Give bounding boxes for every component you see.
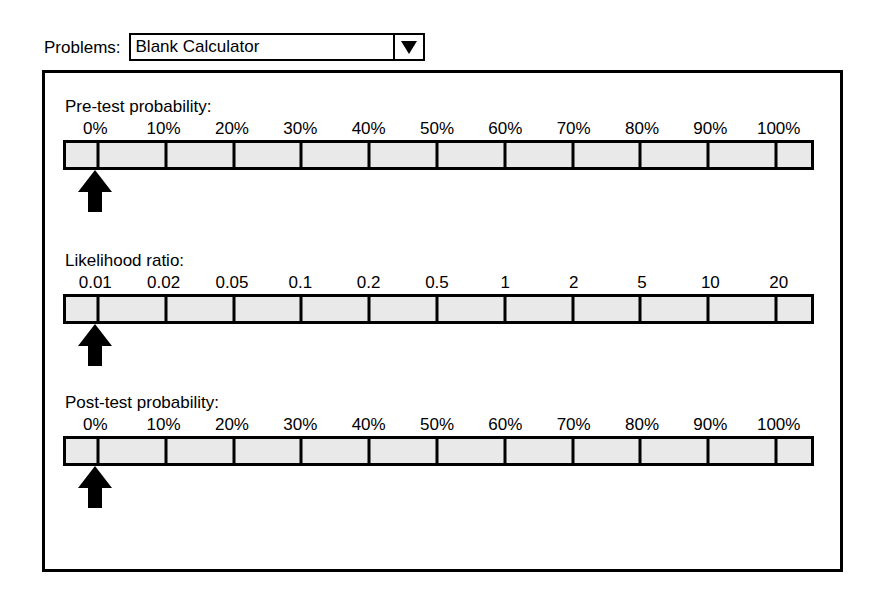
scale-tick-label: 10% <box>147 414 181 436</box>
slider-tick-divider <box>300 297 303 321</box>
slider-tick-divider <box>232 143 235 167</box>
scale-tick-label: 30% <box>283 118 317 140</box>
up-arrow-head <box>78 466 112 488</box>
chevron-down-icon <box>401 41 417 54</box>
slider-tick-divider <box>97 297 100 321</box>
scale-tick-label: 60% <box>488 414 522 436</box>
scale-tick-label: 0.02 <box>147 272 180 294</box>
up-arrow-head <box>78 324 112 346</box>
slider-tick-divider <box>436 439 439 463</box>
slider-track-pre-test-probability[interactable] <box>63 140 814 170</box>
marker-row-pre-test-probability <box>63 170 814 212</box>
up-arrow-stem <box>88 345 102 366</box>
up-arrow-stem <box>88 487 102 508</box>
scale-tick-label: 0.05 <box>215 272 248 294</box>
slider-tick-divider <box>232 439 235 463</box>
slider-tick-divider <box>774 297 777 321</box>
up-arrow-marker[interactable] <box>78 170 112 212</box>
slider-tick-divider <box>97 143 100 167</box>
up-arrow-marker[interactable] <box>78 466 112 508</box>
marker-row-likelihood-ratio <box>63 324 814 366</box>
scale-tick-label: 60% <box>488 118 522 140</box>
slider-group-pre-test-probability: Pre-test probability: 0%10%20%30%40%50%6… <box>63 97 823 212</box>
scale-tick-label: 1 <box>501 272 510 294</box>
slider-tick-divider <box>707 439 710 463</box>
slider-tick-divider <box>503 143 506 167</box>
slider-track-likelihood-ratio[interactable] <box>63 294 814 324</box>
slider-tick-divider <box>774 143 777 167</box>
slider-group-likelihood-ratio: Likelihood ratio: 0.010.020.050.10.20.51… <box>63 251 823 366</box>
scale-tick-label: 10% <box>147 118 181 140</box>
scale-tick-label: 0.2 <box>357 272 381 294</box>
scale-tick-label: 40% <box>352 414 386 436</box>
slider-title-pre-test-probability: Pre-test probability: <box>65 97 823 117</box>
scale-tick-label: 50% <box>420 118 454 140</box>
problems-row: Problems: Blank Calculator <box>44 32 425 62</box>
scale-tick-label: 100% <box>757 118 800 140</box>
scale-tick-label: 0.5 <box>425 272 449 294</box>
slider-group-post-test-probability: Post-test probability: 0%10%20%30%40%50%… <box>63 393 823 508</box>
scale-tick-label: 80% <box>625 118 659 140</box>
slider-tick-divider <box>639 297 642 321</box>
slider-tick-divider <box>707 143 710 167</box>
scale-tick-label: 70% <box>557 118 591 140</box>
up-arrow-head <box>78 170 112 192</box>
scale-tick-label: 30% <box>283 414 317 436</box>
scale-tick-label: 40% <box>352 118 386 140</box>
problems-label: Problems: <box>44 39 121 56</box>
scale-tick-label: 5 <box>637 272 646 294</box>
scale-tick-label: 70% <box>557 414 591 436</box>
slider-tick-divider <box>97 439 100 463</box>
slider-title-likelihood-ratio: Likelihood ratio: <box>65 251 823 271</box>
slider-tick-divider <box>436 297 439 321</box>
scale-tick-label: 2 <box>569 272 578 294</box>
up-arrow-stem <box>88 191 102 212</box>
slider-tick-divider <box>300 143 303 167</box>
slider-tick-divider <box>164 143 167 167</box>
slider-tick-divider <box>164 297 167 321</box>
scale-tick-label: 20% <box>215 414 249 436</box>
scale-tick-label: 10 <box>701 272 720 294</box>
slider-tick-divider <box>707 297 710 321</box>
slider-tick-divider <box>368 297 371 321</box>
slider-tick-divider <box>774 439 777 463</box>
scale-tick-label: 0% <box>83 118 108 140</box>
slider-tick-divider <box>503 439 506 463</box>
slider-title-post-test-probability: Post-test probability: <box>65 393 823 413</box>
scale-tick-label: 20 <box>769 272 788 294</box>
slider-tick-divider <box>571 297 574 321</box>
scale-tick-label: 0.1 <box>288 272 312 294</box>
up-arrow-marker[interactable] <box>78 324 112 366</box>
slider-tick-divider <box>232 297 235 321</box>
scale-tick-label: 80% <box>625 414 659 436</box>
problems-dropdown[interactable]: Blank Calculator <box>129 33 425 61</box>
scale-tick-label: 100% <box>757 414 800 436</box>
calculator-panel: Pre-test probability: 0%10%20%30%40%50%6… <box>42 70 843 572</box>
slider-tick-divider <box>164 439 167 463</box>
scale-labels-likelihood-ratio: 0.010.020.050.10.20.51251020 <box>63 272 814 294</box>
slider-tick-divider <box>368 143 371 167</box>
slider-tick-divider <box>300 439 303 463</box>
problems-dropdown-value[interactable]: Blank Calculator <box>131 35 395 59</box>
scale-tick-label: 20% <box>215 118 249 140</box>
slider-tick-divider <box>639 143 642 167</box>
scale-labels-post-test-probability: 0%10%20%30%40%50%60%70%80%90%100% <box>63 414 814 436</box>
scale-tick-label: 90% <box>693 118 727 140</box>
scale-tick-label: 0.01 <box>79 272 112 294</box>
slider-tick-divider <box>571 439 574 463</box>
scale-tick-label: 90% <box>693 414 727 436</box>
slider-track-post-test-probability[interactable] <box>63 436 814 466</box>
slider-tick-divider <box>639 439 642 463</box>
slider-tick-divider <box>571 143 574 167</box>
problems-dropdown-button[interactable] <box>395 35 423 59</box>
marker-row-post-test-probability <box>63 466 814 508</box>
slider-tick-divider <box>436 143 439 167</box>
slider-tick-divider <box>368 439 371 463</box>
scale-tick-label: 50% <box>420 414 454 436</box>
scale-tick-label: 0% <box>83 414 108 436</box>
slider-tick-divider <box>503 297 506 321</box>
scale-labels-pre-test-probability: 0%10%20%30%40%50%60%70%80%90%100% <box>63 118 814 140</box>
